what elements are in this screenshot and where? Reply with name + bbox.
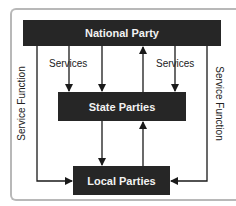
state-parties-label: State Parties (89, 101, 156, 113)
national-party-node: National Party (23, 20, 221, 46)
service-function-label-right: Service Function (214, 64, 225, 144)
services-label-left: Services (49, 58, 87, 69)
local-parties-label: Local Parties (87, 175, 155, 187)
national-party-label: National Party (85, 27, 159, 39)
services-label-right: Services (156, 58, 194, 69)
service-function-label-left: Service Function (16, 64, 27, 144)
local-parties-node: Local Parties (73, 166, 170, 195)
state-parties-node: State Parties (58, 92, 186, 121)
